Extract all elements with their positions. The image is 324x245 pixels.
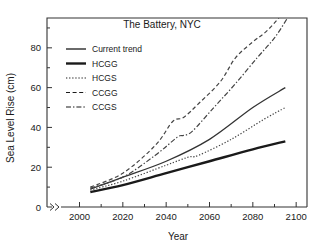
y-tick-label: 60 (30, 82, 41, 93)
x-tick-label: 2040 (156, 211, 177, 222)
legend-label-ccgs: CCGS (92, 102, 117, 112)
sea-level-rise-chart: 020406080 200020202040206020802100 The B… (0, 0, 324, 245)
chart-background (0, 0, 324, 245)
y-tick-label: 0 (36, 202, 41, 213)
x-tick-label: 2020 (112, 211, 133, 222)
y-tick-label: 80 (30, 42, 41, 53)
x-tick-label: 2100 (286, 211, 307, 222)
y-axis-title: Sea Level Rise (cm) (5, 73, 16, 163)
legend-label-current-trend: Current trend (92, 44, 142, 54)
legend-label-ccgg: CCGG (92, 88, 118, 98)
chart-title: The Battery, NYC (123, 19, 201, 30)
legend-label-hcgs: HCGS (92, 73, 117, 83)
legend-label-hcgg: HCGG (92, 59, 118, 69)
y-tick-label: 20 (30, 162, 41, 173)
chart-canvas: 020406080 200020202040206020802100 The B… (0, 0, 324, 245)
y-tick-label: 40 (30, 122, 41, 133)
x-tick-label: 2080 (242, 211, 263, 222)
x-tick-label: 2060 (199, 211, 220, 222)
x-tick-label: 2000 (69, 211, 90, 222)
x-axis-title: Year (168, 231, 189, 242)
